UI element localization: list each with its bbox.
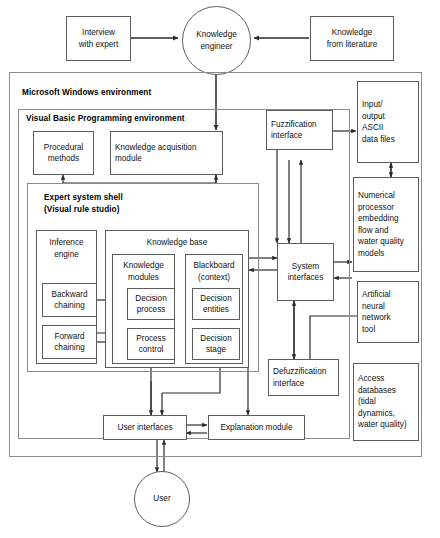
decision-entities-label: Decisionentities bbox=[200, 293, 231, 316]
artificial-neural-network-box: Artificialneuralnetworktool bbox=[357, 281, 419, 343]
decision-process-label: Decisionprocess bbox=[135, 293, 166, 316]
decision-process-box: Decisionprocess bbox=[127, 288, 175, 320]
numerical-processor-label: Numericalprocessorembeddingflow andwater… bbox=[358, 190, 404, 259]
user-interfaces-box: User interfaces bbox=[103, 415, 187, 440]
user-node: User bbox=[134, 471, 190, 527]
numerical-processor-box: Numericalprocessorembeddingflow andwater… bbox=[353, 177, 419, 272]
diagram-canvas: Interviewwith expert Knowledgeengineer K… bbox=[0, 0, 440, 538]
knowledge-acquisition-module-box: Knowledge acquisitionmodule bbox=[110, 131, 223, 175]
process-control-label: Processcontrol bbox=[136, 333, 166, 356]
procedural-methods-label: Proceduralmethods bbox=[44, 142, 84, 165]
decision-stage-label: Decisionstage bbox=[200, 333, 231, 356]
explanation-module-box: Explanation module bbox=[208, 415, 305, 440]
forward-chaining-label: Forwardchaining bbox=[54, 331, 85, 354]
explanation-module-label: Explanation module bbox=[221, 422, 293, 434]
defuzzification-interface-box: Defuzzificationinterface bbox=[268, 359, 339, 396]
knowledge-engineer-node: Knowledgeengineer bbox=[182, 6, 251, 75]
io-ascii-data-files-box: Input/outputASCIIdata files bbox=[357, 81, 419, 163]
panel-windows-title: Microsoft Windows environment bbox=[22, 88, 151, 97]
procedural-methods-box: Proceduralmethods bbox=[33, 131, 94, 175]
access-databases-label: Accessdatabases(tidaldynamics,water qual… bbox=[358, 373, 407, 431]
backward-chaining-box: Backwardchaining bbox=[42, 283, 97, 317]
inference-engine-label: Inferenceengine bbox=[49, 237, 83, 260]
backward-chaining-label: Backwardchaining bbox=[52, 289, 88, 312]
fuzzification-interface-box: Fuzzificationinterface bbox=[266, 110, 333, 150]
knowledge-acquisition-label: Knowledge acquisitionmodule bbox=[115, 142, 196, 165]
panel-vb-title: Visual Basic Programming environment bbox=[26, 114, 185, 123]
interview-label: Interviewwith expert bbox=[79, 27, 119, 50]
interview-with-expert-box: Interviewwith expert bbox=[66, 16, 131, 61]
io-files-label: Input/outputASCIIdata files bbox=[362, 99, 395, 145]
knowledge-base-label: Knowledge base bbox=[147, 237, 208, 249]
ann-tool-label: Artificialneuralnetworktool bbox=[362, 289, 391, 335]
forward-chaining-box: Forwardchaining bbox=[42, 325, 97, 359]
literature-label: Knowledgefrom literature bbox=[327, 27, 378, 50]
blackboard-label: Blackboard(context) bbox=[194, 260, 235, 283]
process-control-box: Processcontrol bbox=[127, 328, 175, 360]
defuzzification-label: Defuzzificationinterface bbox=[273, 366, 326, 389]
user-label: User bbox=[153, 493, 170, 505]
knowledge-engineer-label: Knowledgeengineer bbox=[196, 29, 237, 52]
system-interfaces-box: Systeminterfaces bbox=[277, 243, 334, 301]
system-interfaces-label: Systeminterfaces bbox=[288, 261, 324, 284]
user-interfaces-label: User interfaces bbox=[117, 422, 172, 434]
decision-stage-box: Decisionstage bbox=[192, 328, 240, 360]
panel-shell-title: Expert system shell(Visual rule studio) bbox=[44, 192, 123, 215]
fuzzification-label: Fuzzificationinterface bbox=[271, 119, 317, 142]
access-databases-box: Accessdatabases(tidaldynamics,water qual… bbox=[353, 363, 419, 441]
decision-entities-box: Decisionentities bbox=[192, 288, 240, 320]
knowledge-from-literature-box: Knowledgefrom literature bbox=[310, 16, 394, 61]
knowledge-modules-label: Knowledgemodules bbox=[123, 260, 164, 283]
